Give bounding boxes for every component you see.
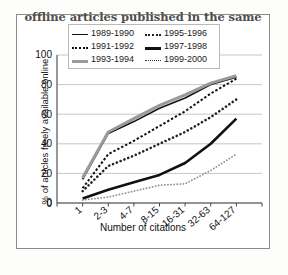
series-line-1995-1996 xyxy=(83,99,237,191)
series-line-1993-1994 xyxy=(83,76,237,178)
svg-text:2-3: 2-3 xyxy=(91,204,109,222)
legend-item[interactable]: 1999-2000 xyxy=(145,53,216,66)
x-axis-title: Number of citations xyxy=(16,222,270,233)
legend-item[interactable]: 1993-1994 xyxy=(72,53,143,66)
legend-item[interactable]: 1989-1990 xyxy=(72,27,143,40)
series-lines xyxy=(83,76,237,200)
series-line-1991-1992 xyxy=(83,79,237,189)
legend-item-label: 1999-2000 xyxy=(164,54,207,65)
legend-item-label: 1993-1994 xyxy=(91,54,134,65)
figure-container: offline articles published in the same 0… xyxy=(0,0,288,275)
legend-line-icon xyxy=(72,55,88,65)
legend-line-icon xyxy=(145,55,161,65)
series-line-1999-2000 xyxy=(83,154,237,200)
legend-line-icon xyxy=(145,29,161,39)
legend-line-icon xyxy=(72,29,88,39)
legend-item-label: 1991-1992 xyxy=(91,41,134,52)
legend-line-icon xyxy=(72,42,88,52)
chart-legend: 1989-1990 1995-1996 1991-1992 1997-1998 … xyxy=(68,24,220,69)
legend-item-label: 1989-1990 xyxy=(91,28,134,39)
svg-text:4-7: 4-7 xyxy=(117,204,135,222)
legend-item[interactable]: 1995-1996 xyxy=(145,27,216,40)
legend-item-label: 1997-1998 xyxy=(164,41,207,52)
legend-item-label: 1995-1996 xyxy=(164,28,207,39)
y-axis-title: % of articles freely available online xyxy=(39,47,50,217)
legend-item[interactable]: 1997-1998 xyxy=(145,40,216,53)
legend-line-icon xyxy=(145,42,161,52)
legend-item[interactable]: 1991-1992 xyxy=(72,40,143,53)
